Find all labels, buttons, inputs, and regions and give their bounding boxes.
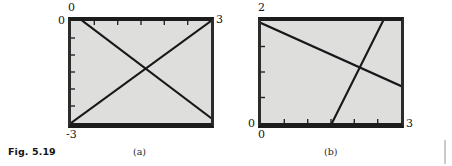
plot-canvas-a — [71, 21, 211, 123]
panel-b: 2 0 0 3 — [258, 17, 404, 128]
ticks-top-a — [94, 21, 187, 25]
plot-frame-b — [258, 17, 404, 128]
axis-label-a-top-left-above: 0 — [68, 2, 75, 13]
axis-label-b-top-left-above: 2 — [258, 2, 265, 13]
curve-a-ascending — [71, 21, 211, 123]
page-edge-artifact — [444, 140, 446, 164]
ticks-left-a — [71, 38, 75, 106]
axis-label-a-top-right: 3 — [216, 14, 223, 25]
axis-label-b-bottom-left-side: 0 — [248, 118, 255, 129]
ticks-bottom-b — [284, 119, 377, 123]
panel-b-sub-caption: (b) — [324, 146, 338, 157]
axis-label-a-bottom-left-below: -3 — [66, 129, 77, 140]
axis-label-a-top-left-side: 0 — [58, 15, 65, 26]
panel-a: 0 0 3 -3 — [68, 17, 214, 128]
figure-5-19: 0 0 3 -3 — [0, 0, 452, 166]
ticks-left-b — [261, 47, 265, 98]
plot-frame-a — [68, 17, 214, 128]
figure-number-label: Fig. 5.19 — [8, 146, 56, 157]
curve-b-shallow-descending — [261, 23, 401, 86]
axis-label-b-bottom-left-below: 0 — [258, 129, 265, 140]
plot-canvas-b — [261, 21, 401, 123]
panel-a-sub-caption: (a) — [133, 146, 146, 157]
axis-label-b-bottom-right: 3 — [406, 118, 413, 129]
curve-b-steep-ascending — [332, 21, 383, 123]
